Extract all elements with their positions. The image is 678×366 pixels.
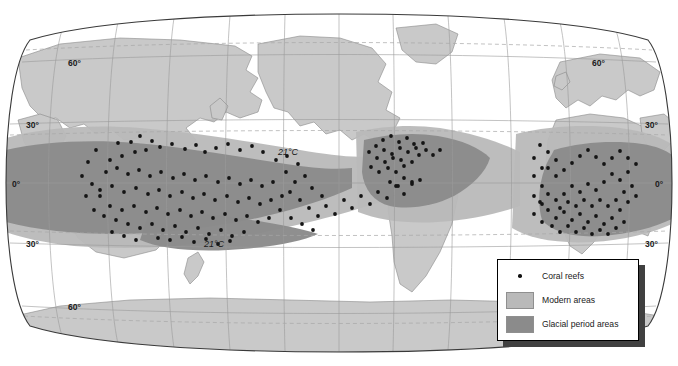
coral-reef-point — [178, 208, 182, 212]
coral-reef-point — [138, 226, 142, 230]
coral-reef-point — [194, 143, 198, 147]
coral-reef-point — [225, 194, 229, 198]
coral-reef-point — [414, 146, 418, 150]
coral-reef-point — [405, 136, 409, 140]
coral-reef-point — [238, 148, 242, 152]
coral-reef-point — [618, 178, 622, 182]
lat-label-right-30n: 30° — [645, 120, 658, 130]
coral-reef-point — [546, 192, 550, 196]
coral-reef-point — [166, 212, 170, 216]
coral-reef-point — [359, 194, 363, 198]
coral-reef-point — [207, 232, 211, 236]
coral-reef-point — [155, 206, 159, 210]
coral-reef-point — [193, 178, 197, 182]
coral-reef-point — [260, 184, 264, 188]
coral-reef-point — [242, 230, 246, 234]
coral-reef-point — [374, 144, 378, 148]
coral-reef-point — [120, 208, 124, 212]
coral-reef-point — [211, 216, 215, 220]
coral-reef-point — [375, 156, 379, 160]
coral-reef-point — [300, 222, 304, 226]
coral-reef-point — [394, 170, 398, 174]
coral-reef-point — [402, 176, 406, 180]
coral-reef-point — [558, 230, 562, 234]
coral-reef-point — [280, 194, 284, 198]
coral-reef-point — [98, 188, 102, 192]
coral-reef-point — [350, 206, 354, 210]
coral-reef-point — [602, 162, 606, 166]
coral-reef-point — [566, 200, 570, 204]
coral-reef-point — [108, 204, 112, 208]
coral-reef-point — [622, 190, 626, 194]
coral-reef-point — [594, 214, 598, 218]
coral-reef-point — [554, 198, 558, 202]
coral-reef-point — [389, 134, 393, 138]
coral-reef-point — [303, 174, 307, 178]
coral-reef-point — [381, 138, 385, 142]
coral-reef-point — [126, 222, 130, 226]
coral-reef-point — [578, 212, 582, 216]
coral-reef-point — [562, 192, 566, 196]
coral-reef-point — [171, 176, 175, 180]
coral-reef-point — [202, 192, 206, 196]
legend-key-coral-reefs — [498, 274, 542, 278]
coral-reef-point — [236, 200, 240, 204]
coral-reef-point — [129, 140, 133, 144]
coral-reef-point — [310, 186, 314, 190]
coral-reef-point — [532, 194, 536, 198]
coral-reef-point — [606, 232, 610, 236]
modern-areas-swatch — [506, 292, 534, 309]
coral-reef-point — [626, 156, 630, 160]
coral-reef-point — [120, 154, 124, 158]
coral-reef-point — [271, 180, 275, 184]
coral-reef-point — [168, 194, 172, 198]
coral-reef-point — [388, 180, 392, 184]
coral-reef-point — [298, 198, 302, 202]
coral-reef-point — [367, 150, 371, 154]
coral-reef-point — [80, 174, 84, 178]
coral-reef-point — [626, 170, 630, 174]
coral-reef-point — [598, 228, 602, 232]
coral-reef-point — [110, 230, 114, 234]
coral-reef-point — [137, 168, 141, 172]
coral-reef-point — [249, 178, 253, 182]
legend-key-glacial-period-areas — [498, 316, 542, 333]
coral-reef-point — [383, 160, 387, 164]
coral-reef-dot-icon — [518, 274, 522, 278]
coral-reef-point — [213, 198, 217, 202]
coral-reef-point — [417, 153, 421, 157]
coral-reef-point — [610, 156, 614, 160]
coral-reef-point — [550, 224, 554, 228]
coral-reef-point — [148, 174, 152, 178]
coral-reef-point — [86, 160, 90, 164]
coral-reef-point — [566, 224, 570, 228]
coral-reef-point — [578, 190, 582, 194]
coral-reef-point — [133, 150, 137, 154]
glacial-period-areas-swatch — [506, 316, 534, 333]
coral-reef-point — [582, 226, 586, 230]
coral-reef-point — [216, 180, 220, 184]
coral-reef-point — [293, 180, 297, 184]
legend-label-modern-areas: Modern areas — [542, 295, 595, 305]
coral-reef-point — [397, 140, 401, 144]
coral-reef-point — [182, 172, 186, 176]
coral-reef-point — [398, 146, 402, 150]
coral-reef-point — [258, 202, 262, 206]
coral-reef-point — [245, 214, 249, 218]
coral-reef-point — [630, 184, 634, 188]
coral-reef-point — [532, 156, 536, 160]
coral-reef-point — [144, 148, 148, 152]
coral-reef-point — [546, 166, 550, 170]
coral-reef-point — [540, 184, 544, 188]
lat-label-right-30s: 30° — [645, 239, 658, 249]
legend-label-glacial-period-areas: Glacial period areas — [542, 319, 618, 329]
coral-reef-point — [110, 184, 114, 188]
legend-label-coral-reefs: Coral reefs — [542, 271, 584, 281]
coral-reef-point — [269, 198, 273, 202]
coral-reef-point — [562, 210, 566, 214]
coral-reef-point — [134, 238, 138, 242]
coral-reef-point — [267, 216, 271, 220]
lat-label-left-60s: 60° — [68, 302, 81, 312]
coral-reef-point — [122, 234, 126, 238]
coral-reef-point — [342, 198, 346, 202]
